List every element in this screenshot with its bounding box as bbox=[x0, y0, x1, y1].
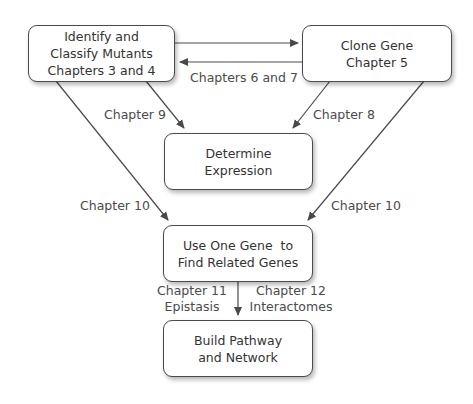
node-determine-expression: Determine Expression bbox=[164, 133, 313, 190]
edge-label-chapters-6-7: Chapters 6 and 7 bbox=[190, 70, 298, 86]
node-line: Build Pathway bbox=[194, 332, 282, 349]
node-line: Identify and bbox=[64, 28, 139, 45]
node-use-one-gene: Use One Gene to Find Related Genes bbox=[163, 225, 313, 282]
node-line: Use One Gene to bbox=[183, 237, 293, 254]
node-identify-classify-mutants: Identify and Classify Mutants Chapters 3… bbox=[28, 25, 175, 82]
node-line: Clone Gene bbox=[341, 37, 413, 54]
node-line: Chapter 5 bbox=[346, 54, 408, 71]
edge-label-chapter-8: Chapter 8 bbox=[313, 107, 375, 123]
edge-label-chapter-10-right: Chapter 10 bbox=[331, 198, 401, 214]
node-build-pathway: Build Pathway and Network bbox=[163, 320, 313, 377]
edge-label-chapter-11-epistasis: Chapter 11 Epistasis bbox=[152, 283, 232, 315]
label-line: Epistasis bbox=[152, 299, 232, 315]
node-line: Find Related Genes bbox=[178, 254, 299, 271]
label-line: Interactomes bbox=[246, 299, 336, 315]
node-line: Determine bbox=[205, 145, 271, 162]
edge-label-chapter-10-left: Chapter 10 bbox=[80, 198, 150, 214]
label-line: Chapter 12 bbox=[246, 283, 336, 299]
edge-label-chapter-9: Chapter 9 bbox=[104, 107, 166, 123]
node-line: and Network bbox=[198, 349, 278, 366]
node-clone-gene: Clone Gene Chapter 5 bbox=[302, 25, 452, 82]
node-line: Classify Mutants bbox=[50, 45, 153, 62]
edge-label-chapter-12-interactomes: Chapter 12 Interactomes bbox=[246, 283, 336, 315]
label-line: Chapter 11 bbox=[152, 283, 232, 299]
node-line: Expression bbox=[205, 162, 273, 179]
node-line: Chapters 3 and 4 bbox=[48, 62, 156, 79]
